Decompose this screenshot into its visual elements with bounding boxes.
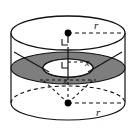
figure-container: r x x r <box>0 0 137 131</box>
label-x-lower: x <box>62 76 67 86</box>
label-r-bottom: r <box>96 106 101 118</box>
label-x-middle: x <box>84 57 90 68</box>
top-center-point <box>65 30 72 37</box>
geometry-diagram: r x x r <box>0 0 137 131</box>
bottom-center-point <box>65 100 72 107</box>
label-r-top: r <box>94 19 99 31</box>
